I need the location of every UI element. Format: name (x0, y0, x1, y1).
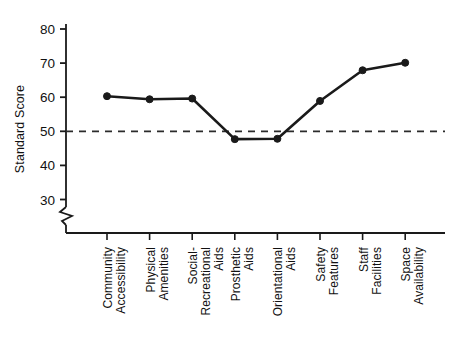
x-axis-category-label: Facilities (370, 247, 384, 295)
x-axis-category-label: Availability (412, 247, 426, 305)
x-axis-category-label: Prosthetic (229, 247, 243, 301)
data-point-marker[interactable] (274, 135, 281, 142)
data-point[interactable]: Physical Amenities: 59.4 (146, 96, 153, 103)
data-point-marker[interactable] (359, 67, 366, 74)
y-axis-tick-label: 70 (40, 56, 55, 71)
data-point[interactable]: Staff Facilities: 67.9 (359, 67, 366, 74)
x-axis-category-label: Features (327, 247, 341, 295)
data-point[interactable]: Orientational Aids: 47.8 (274, 135, 281, 142)
y-axis-tick-label: 30 (40, 193, 55, 208)
y-axis-tick-label: 50 (40, 124, 55, 139)
y-axis-title: Standard Score (13, 85, 27, 173)
x-axis-category-label: Orientational (271, 247, 285, 316)
data-point-marker[interactable] (104, 93, 111, 100)
data-point-marker[interactable] (146, 96, 153, 103)
data-point-marker[interactable] (231, 136, 238, 143)
y-axis-tick-label: 40 (40, 158, 55, 173)
line-chart: 304050607080Standard ScoreCommunity Acce… (0, 0, 449, 341)
x-axis-category-label: Social- (186, 247, 200, 284)
x-axis-category-label: Safety (314, 247, 328, 282)
y-axis-tick-label: 80 (40, 22, 55, 37)
data-point-marker[interactable] (189, 95, 196, 102)
x-axis-category-label: Recreational (199, 247, 213, 316)
data-point[interactable]: Community Accessibility: 60.3 (104, 93, 111, 100)
x-axis-category-label: Aids (212, 247, 226, 271)
x-axis-category-label: Aids (242, 247, 256, 271)
x-axis-category-label: Physical (144, 247, 158, 292)
data-point[interactable]: Safety Features: 58.9 (317, 97, 324, 104)
x-axis-category-label: Community (101, 247, 115, 309)
x-axis-category-label: Staff (357, 246, 371, 272)
y-axis-tick-label: 60 (40, 90, 55, 105)
x-axis-category-label: Accessibility (114, 247, 128, 314)
axis-break-icon (60, 207, 72, 225)
data-point-marker[interactable] (402, 59, 409, 66)
chart-canvas: 304050607080Standard ScoreCommunity Acce… (0, 0, 449, 341)
data-point[interactable]: Social-Recreational Aids: 59.6 (189, 95, 196, 102)
x-axis-category-label: Amenities (157, 247, 171, 301)
x-axis-category-label: Aids (284, 247, 298, 271)
data-point-marker[interactable] (317, 97, 324, 104)
x-axis-category-label: Space (399, 247, 413, 282)
data-point[interactable]: Prosthetic Aids: 47.7 (231, 136, 238, 143)
data-point[interactable]: Space Availability: 70.1 (402, 59, 409, 66)
